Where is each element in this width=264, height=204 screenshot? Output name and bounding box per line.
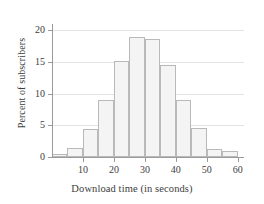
x-tick-label: 40 [171,164,181,175]
y-axis-title: Percent of subscribers [14,8,30,158]
y-tick-label: 5 [40,120,45,130]
histogram-bar [145,39,160,157]
x-tick-mark [238,158,239,162]
y-tick-mark [48,94,52,95]
x-axis-line [52,157,244,158]
histogram-bar [83,129,98,158]
x-tick-label: 60 [233,164,243,175]
y-tick-label: 10 [35,89,45,99]
y-tick-label: 20 [35,25,45,35]
x-tick-label: 10 [78,164,88,175]
histogram-figure: Percent of subscribers 05101520 10203040… [0,0,264,204]
y-tick-label: 0 [40,152,45,162]
y-tick-mark [48,30,52,31]
x-tick-mark [176,158,177,162]
histogram-bar [98,100,113,157]
x-tick-mark [145,158,146,162]
histogram-bar [207,149,222,157]
gridline [53,30,244,31]
plot-area: 05101520 102030405060 [52,24,244,158]
y-tick-mark [48,125,52,126]
histogram-bar [129,37,144,157]
x-tick-label: 30 [140,164,150,175]
x-axis-title: Download time (in seconds) [0,182,264,195]
histogram-bar [191,128,206,157]
x-tick-label: 20 [109,164,119,175]
y-tick-mark [48,157,52,158]
x-tick-mark [207,158,208,162]
histogram-bar [176,100,191,157]
y-axis-line [52,24,53,158]
y-tick-mark [48,62,52,63]
x-tick-mark [83,158,84,162]
x-tick-mark [114,158,115,162]
y-tick-label: 15 [35,57,45,67]
histogram-bar [160,65,175,157]
x-tick-label: 50 [202,164,212,175]
histogram-bar [67,148,82,158]
histogram-bar [114,61,129,157]
